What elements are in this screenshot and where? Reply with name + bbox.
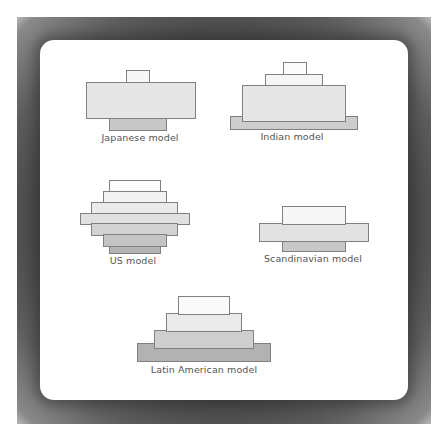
model-label: Indian model — [260, 131, 323, 142]
model-label: Japanese model — [101, 132, 178, 143]
layer-block — [109, 246, 161, 254]
model-label: Scandinavian model — [264, 253, 362, 264]
layer-block — [282, 241, 346, 252]
model-label: Latin American model — [151, 364, 257, 375]
layer-block — [242, 85, 346, 122]
layer-block — [178, 296, 230, 315]
layer-block — [154, 330, 254, 349]
layer-block — [265, 74, 323, 86]
class-structure-diagram: Japanese model Indian model US model Sca… — [0, 0, 444, 434]
layer-block — [109, 118, 167, 131]
layer-block — [283, 62, 307, 75]
model-label: US model — [110, 255, 156, 266]
layer-block — [166, 313, 242, 332]
layer-block — [259, 223, 369, 242]
layer-block — [282, 206, 346, 225]
layer-block — [86, 82, 196, 119]
